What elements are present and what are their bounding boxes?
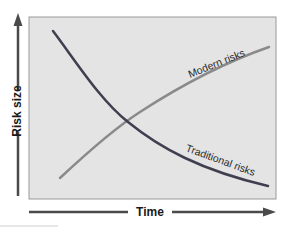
risk-chart: Risk size Time Modern risks Traditional … [0,0,288,228]
x-axis-label: Time [136,205,164,219]
y-axis-label: Risk size [10,85,24,137]
